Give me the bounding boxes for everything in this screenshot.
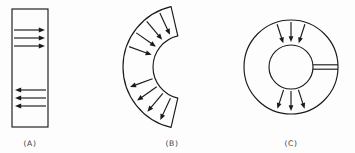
arrow-head [277,103,282,109]
panel-b-caption: (B) [166,139,179,148]
inner-ring [269,45,313,89]
arrow-shaft [147,21,159,35]
panel-c-diagram [244,20,338,114]
flux-arrow [15,87,46,92]
arrow-head [289,36,294,42]
upper-arrows [14,27,45,48]
arrow-head [39,27,45,32]
arrow-head [15,87,21,92]
arrow-shaft [279,90,284,104]
arrow-shaft [151,93,163,107]
lower-arrows [277,90,305,111]
flux-arrow [160,98,170,120]
flux-arrow [277,90,284,109]
bar-outline [12,9,48,127]
flux-arrow [130,79,153,88]
arrow-head [145,50,151,55]
flux-arrow [14,27,45,32]
panel-a-diagram [12,9,48,127]
flux-arrow [147,93,162,111]
arrow-shaft [142,87,157,98]
flux-arrow [15,103,46,108]
flux-arrow [14,35,45,40]
arrow-head [39,43,45,48]
arrow-shaft [277,24,282,38]
arrow-shaft [135,79,152,85]
arrow-head [15,103,21,108]
figure-board: (A) (B) (C) [0,0,355,153]
lower-arrows [15,87,46,108]
flux-arrow [136,33,156,47]
arrow-shaft [163,98,171,115]
arrow-head [15,95,21,100]
panel-a-caption: (A) [24,139,37,148]
arrow-shaft [300,24,305,38]
flux-arrow [14,43,45,48]
flux-arrow [137,87,157,101]
flux-arrow [129,47,152,56]
arrow-shaft [298,90,303,104]
arrow-head [130,83,136,88]
arrow-head [39,35,45,40]
upper-arrows [129,13,170,55]
flux-arrow [147,21,162,39]
figure-canvas: (A) (B) (C) [0,0,355,153]
flux-arrow [289,91,294,111]
flux-arrow [15,95,46,100]
arrow-head [279,37,284,43]
arrow-shaft [129,47,146,53]
arrow-head [150,41,156,46]
panel-b-diagram [123,7,178,128]
panel-c-caption: (C) [284,139,297,148]
arrow-head [298,37,303,43]
arrow-shaft [160,13,168,30]
flux-arrow [289,22,294,42]
lower-arrows [130,79,170,120]
arrow-shaft [136,33,151,44]
flux-arrow [277,24,284,43]
flux-arrow [298,90,305,109]
upper-arrows [277,22,305,43]
arrow-head [137,95,143,100]
flux-arrow [160,13,170,35]
arrow-head [289,105,294,111]
arrow-head [301,103,306,109]
flux-arrow [298,24,305,43]
